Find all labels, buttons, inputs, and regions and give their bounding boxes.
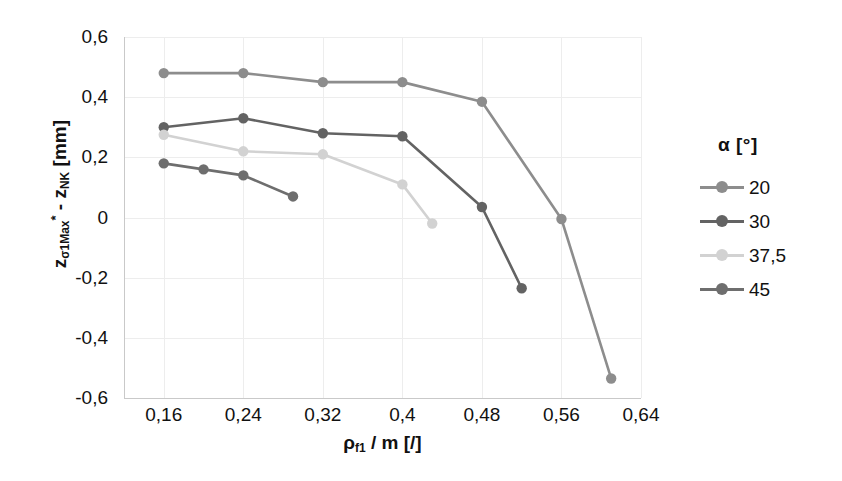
legend-item-375[interactable]: 37,5 <box>700 238 830 272</box>
legend: α [°] 203037,545 <box>700 134 830 306</box>
x-tick-label: 0,16 <box>124 404 204 425</box>
gridline-horizontal-0 <box>124 37 641 38</box>
legend-label: 30 <box>744 212 770 231</box>
legend-swatch <box>700 282 744 296</box>
gridline-horizontal-2 <box>124 157 641 158</box>
legend-item-45[interactable]: 45 <box>700 272 830 306</box>
legend-swatch <box>700 180 744 194</box>
legend-rows: 203037,545 <box>700 170 830 306</box>
gridline-horizontal-1 <box>124 97 641 98</box>
legend-item-30[interactable]: 30 <box>700 204 830 238</box>
x-tick-label: 0,48 <box>442 404 522 425</box>
y-axis-title: zσ1Max* - zNK [mm] <box>48 44 72 344</box>
legend-label: 45 <box>744 280 770 299</box>
legend-item-20[interactable]: 20 <box>700 170 830 204</box>
gridline-horizontal-3 <box>124 218 641 219</box>
y-axis-title-text: zσ1Max* - zNK [mm] <box>49 120 70 268</box>
gridline-vertical-6 <box>641 37 642 398</box>
plot-area <box>124 37 641 398</box>
legend-marker-icon <box>716 283 728 295</box>
legend-title: α [°] <box>718 134 830 156</box>
legend-label: 37,5 <box>744 246 786 265</box>
gridline-horizontal-4 <box>124 278 641 279</box>
legend-marker-icon <box>716 249 728 261</box>
legend-marker-icon <box>716 215 728 227</box>
x-tick-label: 0,64 <box>601 404 681 425</box>
gridline-horizontal-5 <box>124 338 641 339</box>
legend-marker-icon <box>716 181 728 193</box>
x-tick-label: 0,24 <box>203 404 283 425</box>
y-axis-line <box>124 37 125 398</box>
y-tick-label: -0,6 <box>46 388 108 407</box>
legend-swatch <box>700 214 744 228</box>
legend-label: 20 <box>744 178 770 197</box>
x-tick-label: 0,56 <box>521 404 601 425</box>
legend-swatch <box>700 248 744 262</box>
chart-figure: 0,60,40,20-0,2-0,4-0,6 0,160,240,320,40,… <box>0 0 842 481</box>
x-tick-label: 0,32 <box>283 404 363 425</box>
x-axis-line <box>124 398 641 399</box>
x-axis-title: ρf1 / m [/] <box>124 432 641 455</box>
x-tick-label: 0,4 <box>362 404 442 425</box>
